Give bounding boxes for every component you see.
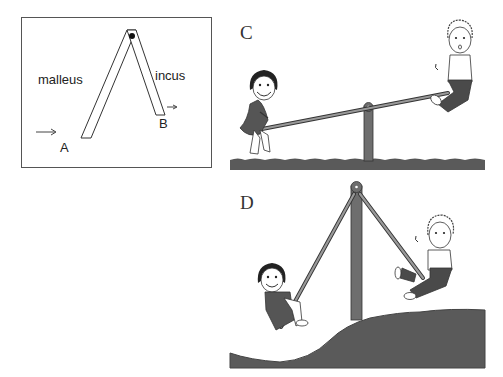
lever-drawing <box>22 18 213 169</box>
seesaw-panel-c: C <box>220 0 503 170</box>
point-b-label: B <box>159 116 168 131</box>
seesaw-panel-d: D <box>220 170 503 377</box>
seesaw-drawing <box>220 0 503 170</box>
lever-diagram-panel: malleus incus A B <box>21 17 212 168</box>
girl-figure <box>240 70 277 154</box>
boy-figure <box>429 20 472 112</box>
malleus-label: malleus <box>38 72 83 87</box>
incus-label: incus <box>155 68 185 83</box>
pivot-icon <box>129 33 135 39</box>
center-post <box>351 186 362 320</box>
girl-figure <box>258 263 308 330</box>
fulcrum-post <box>364 106 373 161</box>
aframe-seesaw-drawing <box>220 170 503 377</box>
point-a-label: A <box>60 140 69 155</box>
malleus-arm <box>81 30 136 138</box>
boy-figure <box>395 215 454 300</box>
